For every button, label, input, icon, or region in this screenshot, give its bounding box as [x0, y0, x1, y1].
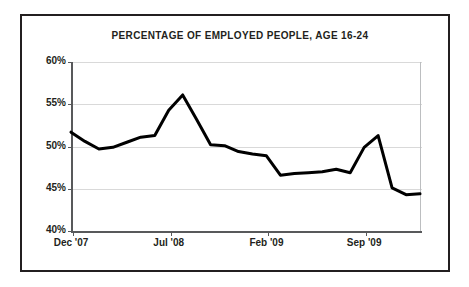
x-axis-labels: Dec '07Jul '08Feb '09Sep '09 — [71, 237, 420, 253]
y-axis-tick-label: 55% — [46, 97, 66, 108]
x-axis-tick-label: Dec '07 — [54, 237, 89, 248]
y-axis-tick-label: 50% — [46, 140, 66, 151]
plot-right-edge — [420, 62, 421, 231]
y-axis-tick-label: 45% — [46, 182, 66, 193]
y-axis-tick-label: 40% — [46, 224, 66, 235]
x-tick-mark — [268, 231, 269, 236]
chart-figure: PERCENTAGE OF EMPLOYED PEOPLE, AGE 16-24… — [0, 0, 469, 287]
y-axis-labels: 40%45%50%55%60% — [26, 62, 66, 231]
chart-title: PERCENTAGE OF EMPLOYED PEOPLE, AGE 16-24 — [60, 30, 420, 41]
x-tick-mark — [73, 231, 74, 236]
x-axis-tick-label: Jul '08 — [153, 237, 184, 248]
data-series-line — [71, 62, 420, 231]
x-axis-tick-label: Sep '09 — [347, 237, 382, 248]
x-tick-mark — [171, 231, 172, 236]
y-axis-tick-label: 60% — [46, 55, 66, 66]
x-axis-tick-label: Feb '09 — [249, 237, 283, 248]
x-tick-mark — [366, 231, 367, 236]
